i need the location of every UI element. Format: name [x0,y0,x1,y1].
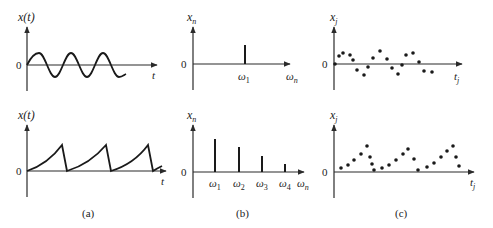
x-axis-label: t [161,175,165,187]
caption-a: (a) [82,207,95,220]
sample-points [333,49,434,77]
panel-a-bottom: x(t) 0 t (a) [16,108,166,220]
sawtooth-curve [27,145,162,171]
y-axis-label: xn [186,108,196,124]
spike-label-4: ω4 [279,177,291,192]
y-axis-label: xn [186,10,196,26]
spike-label-3: ω3 [256,177,268,192]
zero-label: 0 [16,59,22,71]
x-axis-label: tj [470,176,476,191]
zero-label: 0 [322,166,328,178]
spike-label-1: ω1 [209,177,221,192]
sample-points [339,144,461,172]
signal-spectrum-figure: x(t) 0 t x(t) 0 t (a) xn 0 ω1 ωn xn 0 ω1… [0,0,493,228]
y-axis-label: x(t) [17,108,35,122]
zero-label: 0 [322,58,328,70]
zero-label: 0 [181,166,187,178]
zero-label: 0 [181,58,187,70]
x-axis-label: tj [454,70,460,85]
spike-label: ω1 [238,70,250,85]
panel-c-top: xj 0 tj [322,10,462,90]
spike-label-2: ω2 [233,177,245,192]
panel-b-top: xn 0 ω1 ωn [181,10,298,90]
panel-a-top: x(t) 0 t [16,10,157,91]
panel-b-bottom: xn 0 ω1 ω2 ω3 ω4 ωn (b) [181,108,309,220]
panel-c-bottom: xj 0 tj (c) [322,108,476,220]
x-axis-label: ωn [297,177,309,192]
caption-b: (b) [236,207,249,220]
zero-label: 0 [16,165,22,177]
x-axis-label: ωn [286,70,298,85]
caption-c: (c) [395,207,408,220]
y-axis-label: x(t) [17,10,35,24]
x-axis-label: t [152,69,156,81]
y-axis-label: xj [329,10,338,26]
y-axis-label: xj [329,108,338,124]
